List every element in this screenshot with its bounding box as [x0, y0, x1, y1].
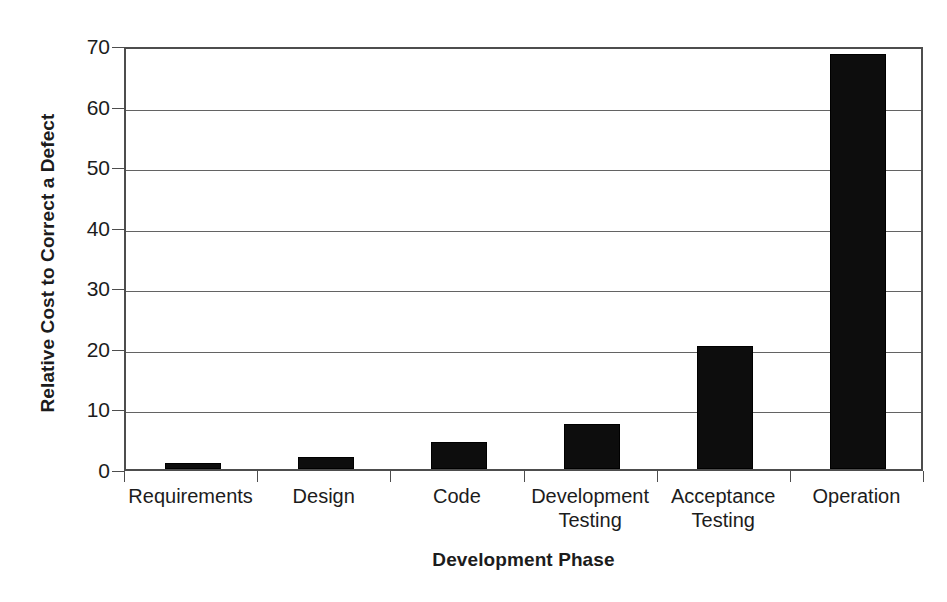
x-axis-category-label: Operation: [790, 484, 923, 508]
x-axis-tick-mark: [923, 471, 924, 482]
bar-slot: [526, 49, 659, 469]
x-axis-category-line: Testing: [657, 508, 790, 532]
y-axis-tick-label: 70: [36, 36, 110, 57]
y-axis-tick-mark: [112, 350, 124, 351]
x-axis-category-line: Requirements: [124, 484, 257, 508]
y-axis-tick-label: 40: [36, 218, 110, 239]
y-axis-tick-label: 60: [36, 97, 110, 118]
bar-slot: [392, 49, 525, 469]
bar-slot: [126, 49, 259, 469]
bar[interactable]: [431, 442, 487, 469]
x-axis-category-line: Development: [524, 484, 657, 508]
plot-area: [124, 47, 923, 471]
bar-slot: [659, 49, 792, 469]
x-axis-title: Development Phase: [124, 549, 923, 571]
bar[interactable]: [165, 463, 221, 469]
y-axis-tick-mark: [112, 168, 124, 169]
x-axis-category-line: Design: [257, 484, 390, 508]
x-axis-category-label: Requirements: [124, 484, 257, 508]
x-axis-tick-mark: [390, 471, 391, 482]
x-axis-tick-mark: [124, 471, 125, 482]
y-axis-tick-label: 50: [36, 157, 110, 178]
x-axis-category-label: Design: [257, 484, 390, 508]
bar[interactable]: [298, 457, 354, 469]
bar[interactable]: [830, 54, 886, 469]
bar[interactable]: [564, 424, 620, 469]
x-axis-tick-mark: [257, 471, 258, 482]
x-axis-category-line: Acceptance: [657, 484, 790, 508]
x-axis-category-line: Operation: [790, 484, 923, 508]
x-axis-category-line: Testing: [524, 508, 657, 532]
y-axis-tick-label: 20: [36, 339, 110, 360]
y-axis-tick-label: 0: [36, 460, 110, 481]
y-axis-tick-mark: [112, 289, 124, 290]
bar-series: [126, 49, 921, 469]
x-axis-category-label: AcceptanceTesting: [657, 484, 790, 532]
y-axis-tick-mark: [112, 410, 124, 411]
bar-chart-figure: Relative Cost to Correct a Defect 010203…: [0, 0, 947, 602]
y-axis-tick-mark: [112, 108, 124, 109]
x-axis-tick-mark: [524, 471, 525, 482]
x-axis-category-line: Code: [390, 484, 523, 508]
y-axis-tick-label: 30: [36, 278, 110, 299]
bar-slot: [259, 49, 392, 469]
bar[interactable]: [697, 346, 753, 469]
y-axis-tick-label: 10: [36, 399, 110, 420]
x-axis-tick-mark: [657, 471, 658, 482]
x-axis-category-label: Code: [390, 484, 523, 508]
y-axis-tick-mark: [112, 471, 124, 472]
bar-slot: [792, 49, 925, 469]
x-axis-tick-mark: [790, 471, 791, 482]
y-axis-tick-mark: [112, 229, 124, 230]
x-axis-category-label: DevelopmentTesting: [524, 484, 657, 532]
y-axis-tick-mark: [112, 47, 124, 48]
